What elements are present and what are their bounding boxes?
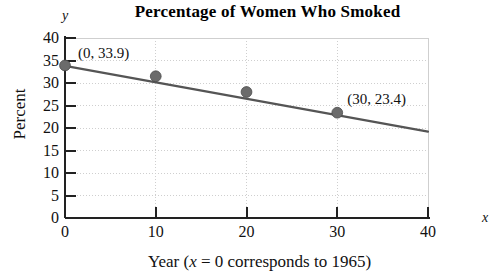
- x-tick-label: 40: [408, 224, 448, 240]
- y-tick-label: 35: [29, 53, 59, 69]
- data-point: [60, 60, 71, 71]
- chart-figure: Percentage of Women Who Smoked Percent Y…: [0, 0, 495, 277]
- y-tick-label: 10: [29, 165, 59, 181]
- point-annotation: (0, 33.9): [78, 45, 129, 62]
- axis-lines: [65, 36, 430, 218]
- x-tick-label: 30: [317, 224, 357, 240]
- point-annotation: (30, 23.4): [347, 91, 406, 108]
- data-point: [150, 71, 161, 82]
- y-tick-label: 25: [29, 98, 59, 114]
- y-tick-label: 40: [29, 30, 59, 46]
- y-tick-label: 5: [29, 188, 59, 204]
- x-tick-label: 0: [45, 224, 85, 240]
- data-point: [241, 87, 252, 98]
- y-tick-label: 20: [29, 120, 59, 136]
- data-point: [332, 107, 343, 118]
- y-tick-label: 30: [29, 75, 59, 91]
- x-tick-label: 10: [136, 224, 176, 240]
- y-tick-label: 15: [29, 143, 59, 159]
- x-tick-label: 20: [227, 224, 267, 240]
- gridlines: [65, 38, 428, 218]
